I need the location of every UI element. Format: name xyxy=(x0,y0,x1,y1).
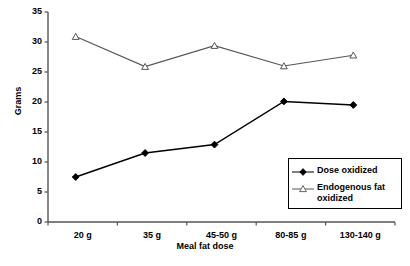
plot-area xyxy=(0,0,410,266)
legend-item-endogenous-fat-oxidized: Endogenous fat oxidized xyxy=(292,182,398,204)
y-tick-label: 5 xyxy=(16,186,42,196)
legend-label: Dose oxidized xyxy=(317,165,378,176)
x-tick-label: 80-85 g xyxy=(256,230,325,240)
legend: Dose oxidized Endogenous fat oxidized xyxy=(288,158,402,209)
x-tick-label: 130-140 g xyxy=(326,230,395,240)
legend-label: Endogenous fat oxidized xyxy=(317,182,398,204)
y-axis-title: Grams xyxy=(13,71,23,131)
x-axis-title: Meal fat dose xyxy=(0,241,410,251)
y-tick-label: 10 xyxy=(16,156,42,166)
legend-item-dose-oxidized: Dose oxidized xyxy=(292,165,398,178)
open-triangle-marker-icon xyxy=(292,183,314,195)
y-tick-label: 30 xyxy=(16,36,42,46)
x-tick-label: 20 g xyxy=(48,230,117,240)
line-chart: 35 30 25 20 15 10 5 0 20 g 35 g 45-50 g … xyxy=(0,0,410,266)
x-tick-label: 45-50 g xyxy=(187,230,256,240)
filled-diamond-marker-icon xyxy=(292,166,314,178)
y-tick-label: 0 xyxy=(16,216,42,226)
y-tick-label: 35 xyxy=(16,6,42,16)
x-tick-label: 35 g xyxy=(117,230,186,240)
